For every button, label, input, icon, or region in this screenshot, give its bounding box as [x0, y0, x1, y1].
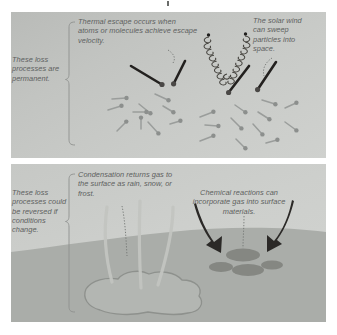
- diagram-figure: These loss processes are permanent. Ther…: [0, 0, 337, 335]
- caption-permanent-loss: These loss processes are permanent.: [12, 55, 64, 83]
- caption-thermal-escape: Thermal escape occurs when atoms or mole…: [78, 17, 198, 45]
- caption-reversible-loss: These loss processes could be reversed i…: [12, 188, 68, 234]
- caption-solar-wind: The solar wind can sweep particles into …: [253, 16, 315, 53]
- caption-condensation: Condensation returns gas to the surface …: [78, 170, 182, 198]
- caption-chemical-reactions: Chemical reactions can incorporate gas i…: [187, 188, 291, 216]
- stray-mark: [167, 1, 169, 6]
